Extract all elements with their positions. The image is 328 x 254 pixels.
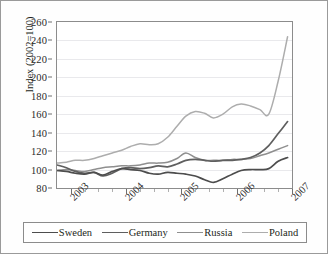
x-axis-ticks: 20032004200520062007 <box>56 189 293 219</box>
series-lines <box>57 22 292 188</box>
y-tick-label: 140 <box>31 127 47 138</box>
x-tick-minor <box>251 189 252 192</box>
x-tick-minor <box>112 189 113 192</box>
x-tick-minor <box>264 189 265 192</box>
series-line-germany <box>57 122 288 176</box>
x-tick-minor <box>85 189 86 192</box>
y-tick-label: 220 <box>31 53 47 64</box>
y-tick-mark <box>48 40 52 41</box>
legend-swatch-poland <box>242 232 268 233</box>
chart-figure: Index (2002=100) 80100120140160180200220… <box>0 0 328 254</box>
y-tick-label: 240 <box>31 35 47 46</box>
y-tick-mark <box>48 58 52 59</box>
x-tick-minor <box>223 189 224 192</box>
y-tick-mark <box>48 77 52 78</box>
plot-area <box>56 21 293 189</box>
y-tick-label: 80 <box>36 183 47 194</box>
y-tick-mark <box>48 188 52 189</box>
legend-swatch-germany <box>102 232 128 233</box>
legend-item-poland[interactable]: Poland <box>242 227 298 238</box>
legend-label: Russia <box>204 227 232 238</box>
x-tick-minor <box>168 189 169 192</box>
y-tick-label: 200 <box>31 72 47 83</box>
x-tick-minor <box>278 189 279 192</box>
legend-swatch-russia <box>177 232 203 233</box>
y-tick-mark <box>48 169 52 170</box>
legend-label: Germany <box>129 227 168 238</box>
x-tick-minor <box>209 189 210 192</box>
series-line-poland <box>57 37 288 163</box>
y-tick-mark <box>48 151 52 152</box>
y-tick-label: 260 <box>31 17 47 28</box>
y-tick-label: 180 <box>31 90 47 101</box>
y-tick-label: 120 <box>31 146 47 157</box>
x-tick-minor <box>154 189 155 192</box>
legend-item-germany[interactable]: Germany <box>102 227 168 238</box>
legend-item-russia[interactable]: Russia <box>177 227 232 238</box>
y-tick-mark <box>48 132 52 133</box>
chart-legend: SwedenGermanyRussiaPoland <box>23 222 307 243</box>
legend-label: Poland <box>269 227 298 238</box>
legend-swatch-sweden <box>32 232 58 233</box>
legend-item-sweden[interactable]: Sweden <box>32 227 92 238</box>
y-tick-label: 160 <box>31 109 47 120</box>
y-tick-label: 100 <box>31 164 47 175</box>
y-tick-mark <box>48 114 52 115</box>
y-tick-mark <box>48 95 52 96</box>
x-tick-minor <box>140 189 141 192</box>
y-axis-ticks: 80100120140160180200220240260 <box>1 21 52 189</box>
y-tick-mark <box>48 22 52 23</box>
legend-label: Sweden <box>59 227 92 238</box>
x-tick-minor <box>98 189 99 192</box>
x-tick-minor <box>195 189 196 192</box>
